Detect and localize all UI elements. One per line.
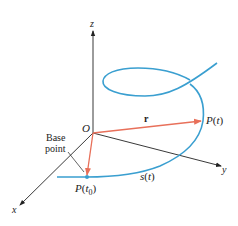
arc-length-paren-close: )	[151, 170, 155, 183]
base-point-leader-line	[68, 152, 84, 172]
space-curve-arc	[57, 84, 203, 177]
y-axis	[93, 133, 221, 166]
origin-label: O	[82, 122, 90, 134]
y-axis-label: y	[221, 164, 227, 175]
p-t-label-paren-close: )	[219, 114, 223, 127]
arc-length-label: s(t)	[140, 170, 155, 183]
space-curve-diagram: z y x O r P(t) P(t0) s(t) Base point	[0, 0, 238, 226]
p-t0-label-paren-close: )	[92, 182, 96, 195]
vector-r-label: r	[144, 113, 149, 124]
base-point-label-line1: Base	[46, 132, 66, 143]
p-t0-label: P(t0)	[74, 182, 96, 197]
x-axis-label: x	[11, 204, 17, 215]
base-point-dot	[85, 175, 89, 179]
p-t-label: P(t)	[205, 114, 223, 127]
base-point-label-line2: point	[45, 143, 66, 154]
position-vector-r0	[87, 133, 93, 175]
space-curve-loop	[103, 63, 217, 96]
z-axis-label: z	[89, 18, 94, 29]
